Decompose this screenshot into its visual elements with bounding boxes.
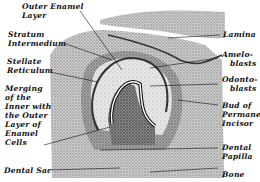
label-line: Intermedium	[8, 39, 66, 48]
label-line: Layer	[22, 11, 84, 20]
label-line: blasts	[222, 84, 258, 93]
label-line: Odonto-	[222, 75, 258, 84]
label-bone: Bone	[222, 170, 245, 179]
label-merging: Merging of the Inner with the Outer Laye…	[5, 84, 52, 147]
label-bud-permanent-incisor: Bud of Permanent Incisor	[222, 101, 260, 128]
label-outer-enamel-layer: Outer Enamel Layer	[22, 2, 84, 20]
label-line: Inner with	[5, 102, 52, 111]
label-dental-papilla: Dental Papilla	[222, 143, 253, 161]
label-line: Layer of	[5, 120, 52, 129]
label-line: Merging	[5, 84, 52, 93]
label-line: Stellate	[7, 57, 53, 66]
label-stratum-intermedium: Stratum Intermedium	[8, 30, 66, 48]
label-line: blasts	[222, 59, 256, 68]
label-line: Outer Enamel	[22, 2, 84, 11]
label-odontoblasts: Odonto- blasts	[222, 75, 258, 93]
label-lamina: Lamina	[223, 30, 256, 39]
label-line: Enamel	[5, 129, 52, 138]
label-line: Lamina	[223, 30, 256, 39]
label-line: the Outer	[5, 111, 52, 120]
label-line: Stratum	[8, 30, 66, 39]
label-line: Cells	[5, 138, 52, 147]
label-line: Bone	[222, 170, 245, 179]
label-line: Reticulum	[7, 66, 53, 75]
label-line: Permanent	[222, 110, 260, 119]
label-line: Papilla	[222, 152, 253, 161]
label-line: Dental Sac	[4, 166, 52, 175]
label-stellate-reticulum: Stellate Reticulum	[7, 57, 53, 75]
label-line: of the	[5, 93, 52, 102]
tooth-germ-diagram: Outer Enamel Layer Stratum Intermedium S…	[0, 0, 260, 182]
label-ameloblasts: Amelo- blasts	[222, 50, 256, 68]
label-dental-sac: Dental Sac	[4, 166, 52, 175]
label-line: Dental	[222, 143, 253, 152]
label-line: Amelo-	[222, 50, 256, 59]
label-line: Bud of	[222, 101, 260, 110]
label-line: Incisor	[222, 119, 260, 128]
